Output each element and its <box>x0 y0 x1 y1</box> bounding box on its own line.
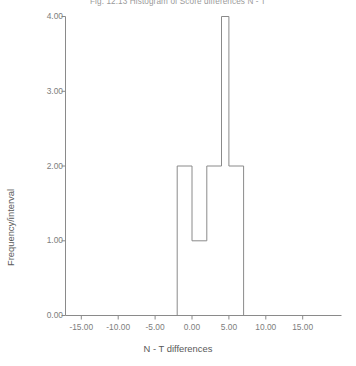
x-axis-title: N - T differences <box>0 343 356 354</box>
x-tick-label-group: -15.00 -10.00 -5.00 0.00 5.00 10.00 15.0… <box>0 0 356 366</box>
y-axis-title: Frequency/interval <box>5 168 16 288</box>
x-tick-label: 15.00 <box>275 322 331 332</box>
plot-area: 0.00 1.00 2.00 3.00 4.00 -15.00 -10.00 -… <box>0 0 356 366</box>
y-axis-title-wrapper: Frequency/interval <box>2 110 16 240</box>
histogram-figure: Fig. 12.13 Histogram of Score difference… <box>0 0 356 366</box>
